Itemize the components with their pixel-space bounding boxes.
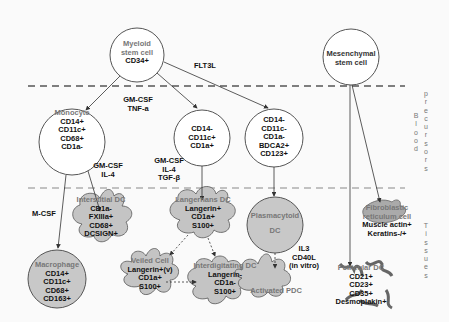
il3-cd40l-label: IL3 CD40L (in vitro) [286,245,322,271]
dc-lineage-diagram: Myeloid stem cell CD34+ Mesenchymal stem… [0,0,449,322]
veiled-cell-label: Veiled Cell Langerin+(v) CD1a+ S100+ [120,257,180,291]
activated-pdc-label: Activated PDC [248,287,304,296]
macrophage-label: Macrophage CD14+ CD11c+ CD68+ CD163+ [32,261,82,304]
arrow-myeloid-to-monocyte [86,76,120,110]
mcsf-label: M-CSF [32,210,56,219]
flt3l-label: FLT3L [194,62,216,71]
pdc-precursor-label: CD14- CD11c- CD1a- BDCA2+ CD123+ [250,116,298,159]
follicular-dc-label: Follicular DC CD21+ CD23+ CD35+ Desmopla… [326,264,396,307]
precursors-zone-label: precursors [422,90,430,173]
gmcsf-il4-tgfb-label: GM-CSF IL-4 TGF-β [152,157,186,183]
cd1a-precursor-label: CD14- CD11c+ CD1a+ [180,125,224,151]
tissues-zone-label: Tissues [422,222,430,280]
mesenchymal-stem-cell-label: Mesenchymal stem cell [322,50,380,67]
arrow-mesenchymal-to-fibroblastic [352,85,380,202]
fibroblastic-reticulum-cell-label: Fibroblastic reticulum cell Muscle actin… [352,204,422,238]
blood-zone-label: Blood [412,112,420,153]
arrow-monocyte-to-macrophage [58,175,66,248]
gmcsf-tnfa-label: GM-CSF TNF-a [122,96,154,113]
arrow-langerhans-to-interdigitating [208,238,215,256]
arrow-myeloid-to-pdc-precursor [164,62,268,108]
langerhans-dc-label: Langerhans DC Langerin+ CD1a+ S100+ [172,196,234,230]
arrow-langerhans-veiled [170,235,188,255]
plasmacytoid-dc-label: Plasmacytoid DC [250,212,300,235]
monocyte-label: Monocyte CD14+ CD11c+ CD68+ CD1a- [47,109,97,152]
arrow-myeloid-to-cd1a-precursor [157,73,197,108]
myeloid-stem-cell-label: Myeloid stem cell CD34+ [112,40,162,66]
gmcsf-il4-label: GM-CSF IL-4 [92,162,124,179]
interstitial-dc-label: Interstitial DC CD1a- FXIIIa+ CD68+ DCSI… [76,196,126,239]
